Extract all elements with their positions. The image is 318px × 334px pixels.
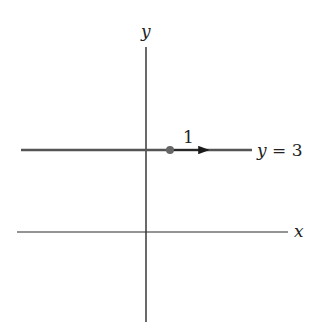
line-equation-var: y bbox=[256, 140, 267, 160]
y-axis-label: y bbox=[140, 21, 151, 41]
vector-length-label: 1 bbox=[183, 127, 194, 147]
x-axis-label: x bbox=[294, 221, 304, 241]
line-equation-label: y = 3 bbox=[256, 140, 303, 160]
line-equation-value: 3 bbox=[292, 140, 303, 160]
line-equation-eq: = bbox=[267, 140, 292, 160]
point-dot bbox=[166, 146, 174, 154]
diagram-canvas: y x 1 y = 3 bbox=[0, 0, 318, 334]
